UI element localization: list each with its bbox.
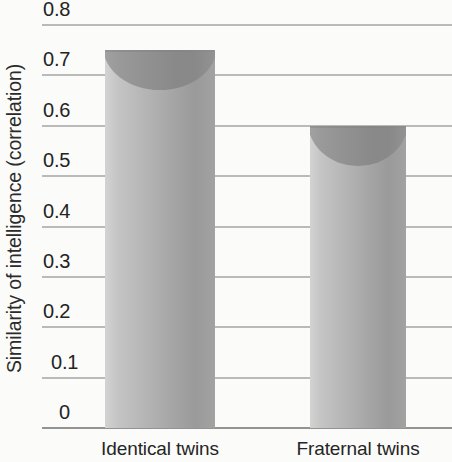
- bar-top-cylinder-shading: [105, 50, 215, 92]
- gridline: [42, 24, 452, 26]
- plot-area: 0.80.70.60.50.40.30.20.10: [42, 0, 452, 437]
- gridline: [42, 74, 452, 76]
- x-axis-tick-label: Identical twins: [70, 438, 250, 460]
- bar-top-edge: [310, 126, 406, 128]
- y-axis-tick-label: 0.2: [43, 300, 70, 326]
- bar-chart: Similarity of intelligence (correlation)…: [0, 0, 452, 462]
- bar-top-edge: [105, 50, 215, 52]
- y-axis-title: Similarity of intelligence (correlation): [0, 0, 30, 437]
- y-axis-title-text: Similarity of intelligence (correlation): [4, 64, 27, 373]
- bar-top-cylinder-shading: [310, 126, 406, 168]
- y-axis-tick-label: 0.6: [43, 99, 70, 125]
- x-axis-tick-label: Fraternal twins: [268, 438, 448, 460]
- y-axis-tick-label: 0.3: [43, 250, 70, 276]
- y-axis-tick-label: 0.4: [43, 200, 70, 226]
- y-axis-tick-label: 0.8: [43, 0, 70, 24]
- y-axis-tick-label: 0: [59, 401, 70, 427]
- bar-fraternal-twins: [310, 126, 406, 428]
- x-axis-labels: Identical twinsFraternal twins: [42, 437, 452, 462]
- y-axis-tick-label: 0.5: [43, 149, 70, 175]
- bar-identical-twins: [105, 50, 215, 428]
- y-axis-tick-label: 0.7: [43, 48, 70, 74]
- y-axis-tick-label: 0.1: [51, 351, 78, 377]
